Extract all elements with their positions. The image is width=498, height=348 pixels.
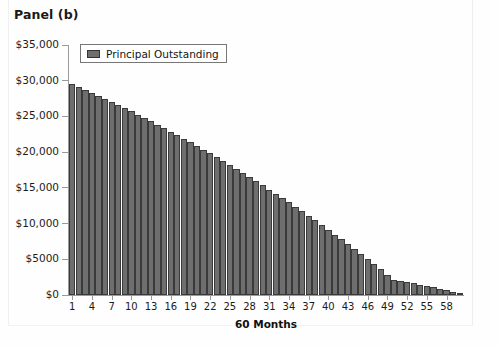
bar-month-32	[273, 194, 279, 295]
bar-month-57	[437, 289, 443, 295]
bar-month-17	[174, 135, 180, 295]
x-axis-tick-label: 28	[243, 301, 256, 312]
bar-month-49	[384, 275, 390, 295]
x-axis-tick-mark	[447, 296, 448, 300]
bar-month-21	[200, 150, 206, 295]
x-axis-tick-mark	[368, 296, 369, 300]
plot-area	[69, 45, 463, 295]
bar-month-52	[404, 282, 410, 295]
x-axis-tick-label: 19	[184, 301, 197, 312]
bar-month-36	[299, 211, 305, 295]
x-axis-tick-mark	[112, 296, 113, 300]
bar-month-18	[181, 139, 187, 295]
x-axis-tick-label: 10	[125, 301, 138, 312]
bar-month-41	[332, 235, 338, 295]
bar-month-47	[371, 264, 377, 295]
x-axis-tick-label: 13	[145, 301, 158, 312]
bar-month-28	[246, 177, 252, 295]
x-axis-tick-mark	[289, 296, 290, 300]
x-axis-tick-label: 7	[108, 301, 114, 312]
x-axis-tick-label: 25	[224, 301, 237, 312]
x-axis-tick-mark	[348, 296, 349, 300]
bar-month-9	[122, 108, 128, 295]
bar-month-43	[345, 244, 351, 295]
bar-month-50	[391, 280, 397, 295]
bar-month-30	[260, 185, 266, 295]
bar-month-60	[457, 293, 463, 295]
x-axis-tick-label: 37	[302, 301, 315, 312]
y-axis-tick-label: $10,000	[16, 217, 59, 229]
x-axis-tick-mark	[190, 296, 191, 300]
bar-month-24	[220, 161, 226, 295]
y-axis-tick-label: $30,000	[16, 74, 59, 86]
bar-month-22	[207, 153, 213, 295]
x-axis-tick-label: 46	[361, 301, 374, 312]
x-axis-line	[68, 295, 464, 296]
bar-month-20	[194, 146, 200, 295]
y-axis-tick-mark	[62, 259, 69, 260]
bar-month-35	[292, 207, 298, 295]
x-axis-tick-mark	[171, 296, 172, 300]
bar-month-4	[89, 93, 95, 295]
x-axis-tick-mark	[427, 296, 428, 300]
y-axis-tick-label: $20,000	[16, 145, 59, 157]
bar-month-37	[306, 216, 312, 295]
bar-month-33	[279, 198, 285, 295]
x-axis-tick-label: 43	[342, 301, 355, 312]
y-axis-tick-mark	[62, 187, 69, 188]
bar-month-15	[161, 128, 167, 295]
y-axis-tick-mark	[62, 116, 69, 117]
bar-month-48	[378, 269, 384, 295]
x-axis-tick-label: 49	[381, 301, 394, 312]
bar-month-55	[424, 286, 430, 295]
x-axis-tick-mark	[131, 296, 132, 300]
bar-month-44	[351, 249, 357, 295]
bar-month-16	[168, 132, 174, 295]
bar-month-19	[187, 142, 193, 295]
x-axis-tick-label: 52	[401, 301, 414, 312]
bar-month-58	[443, 290, 449, 295]
x-axis-tick-label: 34	[283, 301, 296, 312]
bar-month-29	[253, 181, 259, 295]
bar-month-42	[338, 239, 344, 295]
x-axis-tick-mark	[210, 296, 211, 300]
bar-month-12	[141, 118, 147, 295]
bar-month-7	[109, 102, 115, 295]
bar-month-39	[319, 225, 325, 295]
bar-month-11	[135, 115, 141, 295]
x-axis-tick-label: 22	[204, 301, 217, 312]
x-axis-tick-mark	[407, 296, 408, 300]
page-frame-right-border	[472, 0, 473, 325]
y-axis-tick-mark	[62, 295, 69, 296]
bar-month-2	[76, 87, 82, 295]
y-axis-tick-label: $15,000	[16, 181, 59, 193]
x-axis-tick-mark	[151, 296, 152, 300]
bar-month-45	[358, 254, 364, 295]
x-axis-tick-label: 16	[164, 301, 177, 312]
bar-month-54	[417, 285, 423, 296]
x-axis-tick-mark	[269, 296, 270, 300]
x-axis-tick-mark	[230, 296, 231, 300]
bar-month-8	[115, 105, 121, 295]
x-axis-tick-mark	[328, 296, 329, 300]
legend-label-principal-outstanding: Principal Outstanding	[106, 48, 219, 60]
bar-month-14	[154, 125, 160, 295]
x-axis-tick-label: 4	[89, 301, 95, 312]
y-axis-tick-label: $35,000	[16, 38, 59, 50]
bar-month-3	[82, 90, 88, 295]
legend-swatch-principal-outstanding	[87, 50, 100, 58]
bar-month-34	[286, 202, 292, 295]
x-axis-tick-label: 31	[263, 301, 276, 312]
bar-month-10	[128, 111, 134, 295]
y-axis-tick-label: $0	[46, 288, 59, 300]
bar-month-56	[430, 287, 436, 295]
y-axis-tick-mark	[62, 152, 69, 153]
x-axis-title: 60 Months	[68, 318, 464, 330]
bar-month-25	[227, 165, 233, 295]
bar-month-23	[214, 157, 220, 295]
x-axis-tick-label: 55	[421, 301, 434, 312]
bar-month-59	[450, 292, 456, 295]
x-axis-tick-mark	[387, 296, 388, 300]
bar-month-46	[365, 259, 371, 295]
bar-month-1	[69, 84, 75, 295]
